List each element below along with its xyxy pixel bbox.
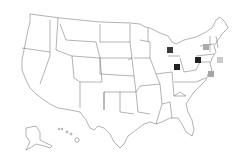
marker-pennsylvania: [195, 57, 201, 63]
marker-ohio: [174, 64, 180, 70]
us-map: [0, 0, 247, 161]
marker-michigan: [167, 47, 173, 53]
hawaii-islands: [58, 128, 79, 142]
marker-delaware: [208, 71, 214, 77]
us-outline: [22, 14, 228, 148]
alaska-outline: [26, 126, 52, 150]
marker-connecticut: [217, 57, 223, 63]
marker-new-york: [203, 44, 209, 50]
